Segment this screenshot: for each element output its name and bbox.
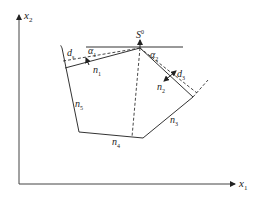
- polygon-diagram: x2 x1 S0 α1 α2 ds d3: [0, 0, 262, 197]
- ds-label: ds: [67, 47, 75, 60]
- dashed-vertical: [132, 48, 140, 137]
- dashed-offset-n2: [140, 48, 197, 93]
- edge-n4: [79, 132, 143, 138]
- dashed-left-extension: [60, 44, 62, 48]
- n1-label: n1: [93, 64, 101, 77]
- x2-axis-label: x2: [23, 9, 33, 24]
- n3-label: n3: [170, 114, 178, 127]
- edge-n1: [65, 48, 140, 68]
- normal-n2-arrow: [164, 76, 170, 81]
- dashed-offset-n1: [63, 48, 140, 61]
- n2-label: n2: [157, 81, 165, 94]
- edge-n2: [140, 48, 193, 97]
- alpha2-label: α2: [150, 49, 158, 62]
- x1-axis-label: x1: [238, 177, 248, 192]
- coordinate-axes: [19, 15, 235, 184]
- n5-label: n5: [75, 98, 83, 111]
- n4-label: n4: [112, 136, 120, 149]
- d3-arrow: [170, 71, 176, 76]
- apex-label: S0: [136, 29, 144, 40]
- edge-n3: [143, 97, 193, 138]
- dashed-extension-n2: [193, 80, 208, 97]
- d3-label: d3: [177, 68, 185, 81]
